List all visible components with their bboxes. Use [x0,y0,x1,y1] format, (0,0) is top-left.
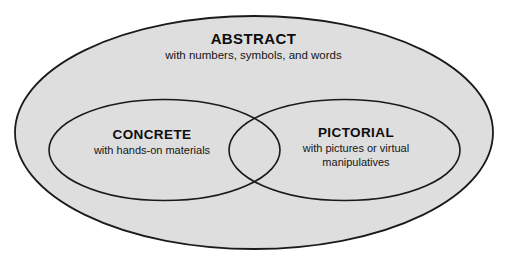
label-concrete: CONCRETE with hands-on materials [62,127,242,157]
label-pictorial-title: PICTORIAL [268,125,444,141]
label-concrete-title: CONCRETE [62,127,242,143]
label-pictorial-subtitle-line2: manipulatives [268,156,444,169]
venn-diagram: ABSTRACT with numbers, symbols, and word… [0,0,507,263]
label-pictorial-subtitle-line1: with pictures or virtual [268,142,444,155]
label-abstract-subtitle: with numbers, symbols, and words [0,48,507,62]
label-abstract-title: ABSTRACT [0,30,507,47]
label-abstract: ABSTRACT with numbers, symbols, and word… [0,30,507,62]
label-concrete-subtitle: with hands-on materials [62,144,242,157]
label-pictorial: PICTORIAL with pictures or virtual manip… [268,125,444,169]
